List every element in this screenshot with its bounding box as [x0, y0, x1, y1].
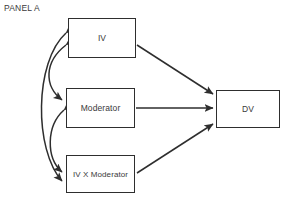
node-iv[interactable]: IV	[68, 18, 136, 58]
arrow-iv-to-dv	[137, 45, 213, 94]
curve-moderator-to-ivxmoderator	[50, 110, 64, 172]
node-dv-label: DV	[242, 104, 254, 114]
node-iv-x-moderator[interactable]: IV X Moderator	[66, 155, 135, 193]
curve-iv-to-ivxmoderator	[41, 33, 66, 181]
node-iv-x-moderator-label: IV X Moderator	[73, 170, 128, 179]
node-dv[interactable]: DV	[216, 90, 280, 128]
node-moderator-label: Moderator	[81, 103, 121, 113]
diagram-canvas: PANEL A IV Moderator IV X Moderator	[0, 0, 286, 210]
node-moderator[interactable]: Moderator	[66, 88, 135, 128]
arrow-ivxmoderator-to-dv	[137, 124, 213, 173]
node-iv-label: IV	[98, 33, 106, 43]
